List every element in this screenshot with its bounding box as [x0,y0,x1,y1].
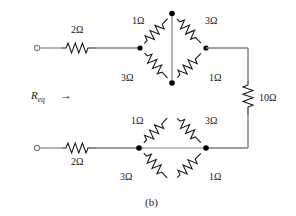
req-arrow-icon: → [60,89,72,101]
figure-caption: (b) [145,197,158,208]
right-branch-wires [206,48,248,148]
2-ohm-series-top-resistor [62,43,96,53]
equivalent-resistance-label: Req [31,90,45,104]
label-3-ohm-top-bridge-upper-right: 3Ω [205,16,217,26]
3-ohm-top-bridge-upper-right-resistor [174,16,205,47]
3-ohm-bottom-bridge-lower-left-resistor [140,150,170,181]
label-1-ohm-top-bridge-upper-left: 1Ω [132,16,144,26]
label-10-ohm: 10Ω [259,93,276,103]
label-1-ohm-bottom-bridge-lower-right: 1Ω [209,172,221,182]
req-subscript: eq [38,95,45,104]
label-3-ohm-top-bridge-lower-left: 3Ω [121,73,133,83]
label-1-ohm-top-bridge-lower-right: 1Ω [209,73,221,83]
label-2-ohm-series-bottom: 2Ω [71,157,83,167]
top-bridge-top-node [169,11,175,17]
2-ohm-series-bottom-resistor [62,143,96,153]
3-ohm-bottom-bridge-upper-right-resistor [174,115,204,146]
3-ohm-top-bridge-lower-left-resistor [141,50,171,81]
label-1-ohm-bottom-bridge-upper-left: 1Ω [131,116,143,126]
bottom-input-terminal [34,145,39,150]
10-ohm-vertical-resistor [243,81,253,115]
top-bridge-bottom-node [169,80,175,86]
1-ohm-top-bridge-lower-right-resistor [174,50,204,81]
label-3-ohm-bottom-bridge-upper-right: 3Ω [205,116,217,126]
bottom-bridge-left-node [136,145,142,151]
1-ohm-bottom-bridge-lower-right-resistor [174,150,204,181]
circuit-schematic [0,0,296,216]
bottom-bridge-right-node [203,145,209,151]
circuit-diagram-figure: 2Ω 1Ω 3Ω 3Ω 1Ω Req → 10Ω 1Ω 3Ω 3Ω 1Ω 2Ω … [0,0,296,216]
top-input-terminal [34,45,39,50]
req-symbol: R [31,89,38,101]
1-ohm-bottom-bridge-upper-left-resistor [140,115,170,146]
label-2-ohm-series-top: 2Ω [71,25,83,35]
1-ohm-top-bridge-upper-left-resistor [141,15,171,46]
top-bridge-left-node [137,45,142,50]
label-3-ohm-bottom-bridge-lower-left: 3Ω [120,172,132,182]
